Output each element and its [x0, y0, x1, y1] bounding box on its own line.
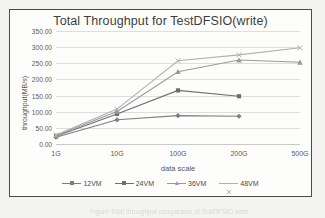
legend-marker-x-icon — [219, 179, 238, 187]
legend-item-12VM[interactable]: 12VM — [62, 179, 101, 187]
x-axis-label: data scale — [56, 164, 300, 173]
chart-page: Total Throughput for TestDFSIO(write) 0.… — [0, 0, 325, 218]
y-tick-label: 250.00 — [32, 60, 52, 67]
chart-frame: Total Throughput for TestDFSIO(write) 0.… — [9, 9, 312, 197]
legend-marker-square-icon — [115, 179, 134, 187]
legend-label: 48VM — [240, 180, 258, 187]
x-tick-label: 500G — [291, 150, 308, 157]
legend-marker-diamond-icon — [62, 179, 81, 187]
y-tick-label: 300.00 — [32, 44, 52, 51]
y-tick-label: 50.00 — [35, 124, 52, 131]
legend-marker-triangle-icon — [167, 179, 186, 187]
x-tick-label: 10G — [110, 150, 123, 157]
data-point-marker — [175, 113, 180, 118]
y-tick-label: 200.00 — [32, 76, 52, 83]
data-point-marker — [114, 117, 119, 122]
legend-item-24VM[interactable]: 24VM — [115, 179, 154, 187]
y-tick-label: 0.00 — [39, 141, 52, 148]
x-tick-label: 200G — [230, 150, 247, 157]
data-point-marker — [176, 88, 180, 92]
plot-area: 0.0050.00100.00150.00200.00250.00300.003… — [56, 31, 300, 144]
chart-legend: 12VM24VM36VM48VM — [10, 179, 311, 187]
legend-item-48VM[interactable]: 48VM — [219, 179, 258, 187]
legend-label: 12VM — [83, 180, 101, 187]
legend-item-36VM[interactable]: 36VM — [167, 179, 206, 187]
y-tick-label: 100.00 — [32, 108, 52, 115]
y-axis-label: throughput(MB/s) — [21, 76, 28, 130]
data-point-marker — [236, 114, 241, 119]
series-24VM — [54, 88, 241, 138]
y-tick-label: 350.00 — [32, 28, 52, 35]
y-tick-label: 150.00 — [32, 92, 52, 99]
scan-caption-artifact: Figure Total throughput comparison of Te… — [28, 208, 311, 217]
chart-title: Total Throughput for TestDFSIO(write) — [10, 14, 311, 28]
series-layer — [56, 31, 300, 144]
data-point-marker — [237, 94, 241, 98]
x-tick-label: 1G — [51, 150, 60, 157]
x-tick-label: 100G — [169, 150, 186, 157]
series-36VM — [53, 57, 303, 138]
legend-label: 36VM — [188, 180, 206, 187]
x-axis-line — [56, 144, 300, 145]
legend-label: 24VM — [136, 180, 154, 187]
